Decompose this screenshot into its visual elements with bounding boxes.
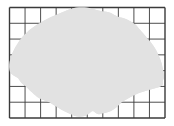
area-grid-diagram (0, 0, 174, 126)
